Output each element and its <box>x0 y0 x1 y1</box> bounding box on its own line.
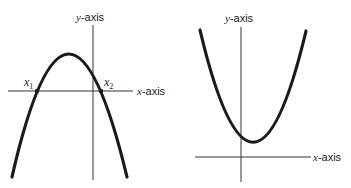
root-x1-point <box>35 89 39 93</box>
right-y-axis-label: y-axis <box>224 12 254 24</box>
right-x-axis-label: x-axis <box>312 151 342 163</box>
diagram-canvas: y-axis x-axis x1 x2 y-axis x-axis <box>0 0 351 188</box>
root-x2-label: x2 <box>103 75 113 91</box>
left-x-axis-label: x-axis <box>136 85 166 97</box>
left-graph: y-axis x-axis x1 x2 <box>8 11 166 180</box>
left-y-axis-label: y-axis <box>75 11 105 23</box>
root-x1-label: x1 <box>23 75 33 91</box>
right-parabola-curve <box>200 30 306 142</box>
root-x2-point <box>99 89 103 93</box>
right-graph: y-axis x-axis <box>195 12 342 182</box>
left-parabola-curve <box>12 54 127 177</box>
